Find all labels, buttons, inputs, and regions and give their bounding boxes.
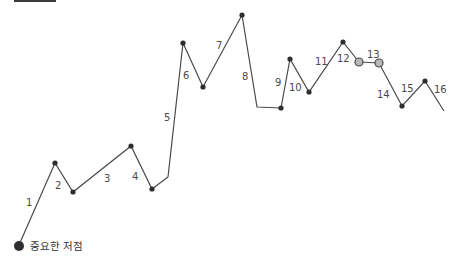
segment-label: 11 [315,56,328,67]
turning-point-dot-icon [287,56,292,61]
turning-point-dot-icon [399,103,404,108]
turning-point-dot-icon [52,160,57,165]
segment-label: 12 [337,53,350,64]
segment-labels: 12345678910111213141516 [26,40,447,208]
segment-label: 14 [377,89,390,100]
turning-point-dot-icon [340,39,345,44]
turning-point-dot-icon [180,40,185,45]
price-wave-line [19,15,444,245]
segment-label: 5 [164,112,170,123]
turning-point-dot-icon [149,186,154,191]
turning-point-dots [52,12,427,194]
segment-label: 4 [132,171,138,182]
legend: 중요한 저점 [14,240,83,252]
segment-label: 2 [55,180,61,191]
important-low-dot-icon [14,241,24,251]
segment-label: 9 [275,77,281,88]
turning-point-dot-icon [70,189,75,194]
turning-point-dot-icon [200,84,205,89]
segment-label: 3 [104,173,110,184]
turning-point-dot-icon [278,105,283,110]
segment-label: 10 [289,82,302,93]
turning-point-dot-icon [422,78,427,83]
segment-label: 7 [216,40,222,51]
legend-label: 중요한 저점 [30,240,83,252]
wave-diagram: 12345678910111213141516 중요한 저점 [0,0,458,269]
turning-point-dot-icon [306,89,311,94]
segment-label: 16 [434,84,447,95]
turning-point-dot-icon [128,143,133,148]
highlight-point-dot-icon [375,59,383,67]
segment-label: 8 [242,71,248,82]
segment-label: 13 [367,49,380,60]
highlight-point-dot-icon [355,58,363,66]
segment-label: 6 [183,70,189,81]
segment-label: 15 [401,83,414,94]
segment-label: 1 [26,197,32,208]
turning-point-dot-icon [239,12,244,17]
